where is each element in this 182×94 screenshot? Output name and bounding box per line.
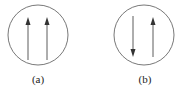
label-a: (a) xyxy=(18,73,58,85)
arrow-up-icon xyxy=(151,17,156,57)
circle-a xyxy=(8,5,68,65)
circle-b xyxy=(114,5,174,65)
diagram-b xyxy=(114,5,174,65)
arrow-up-icon xyxy=(26,17,31,60)
label-b: (b) xyxy=(125,73,165,85)
arrow-up-icon xyxy=(45,17,50,60)
diagram-a xyxy=(8,5,68,65)
arrow-down-icon xyxy=(131,16,136,57)
